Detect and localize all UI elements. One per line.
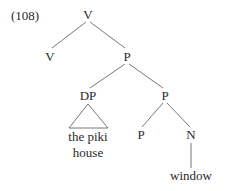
node-dp: DP — [80, 89, 97, 103]
node-v-left: V — [45, 50, 54, 64]
branch-p-to-p-low — [142, 103, 163, 127]
leaf-window: window — [170, 168, 212, 184]
branch-root-to-v — [52, 22, 86, 48]
dp-triangle — [69, 104, 108, 128]
example-number: (108) — [11, 9, 39, 23]
branch-p-to-dp — [90, 64, 125, 88]
tree-branches — [0, 0, 225, 191]
node-p-top: P — [123, 50, 130, 64]
node-p-low: P — [137, 128, 144, 142]
branch-p-to-n — [167, 103, 190, 127]
node-n: N — [186, 128, 195, 142]
leaf-dp-line2: house — [73, 145, 103, 161]
node-root-v: V — [83, 8, 92, 22]
leaf-dp-line1: the piki — [68, 129, 107, 145]
branch-p-to-p — [129, 64, 163, 88]
node-p-mid: P — [161, 89, 168, 103]
branch-root-to-p — [90, 22, 125, 48]
